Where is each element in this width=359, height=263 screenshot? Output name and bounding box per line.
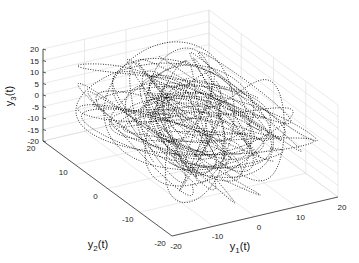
tick-label: 10 <box>59 168 68 177</box>
tick-label: -20 <box>154 239 166 248</box>
chart-3d-plot: -20-15-10-505101520-20-1001020-20-100102… <box>0 0 359 263</box>
tick-label: 20 <box>30 45 39 54</box>
tick-label: -20 <box>170 242 182 251</box>
tick-label: -10 <box>27 114 39 123</box>
tick-label: -5 <box>32 103 40 112</box>
x-axis-label: y1(t) <box>230 240 250 255</box>
tick-label: 5 <box>35 80 40 89</box>
trajectory <box>76 42 317 203</box>
tick-label: 15 <box>30 57 39 66</box>
tick-label: 0 <box>35 91 40 100</box>
tick-label: -10 <box>122 215 134 224</box>
tick-label: 20 <box>338 203 347 212</box>
tick-label: 0 <box>257 223 262 232</box>
tick-label: 0 <box>93 192 98 201</box>
tick-label: 20 <box>27 144 36 153</box>
tick-label: 10 <box>296 213 305 222</box>
tick-label: 10 <box>30 68 39 77</box>
tick-label: -15 <box>27 126 39 135</box>
grid-lines <box>43 10 338 236</box>
tick-label: -10 <box>212 232 224 241</box>
z-axis-label: y3(t) <box>3 86 18 106</box>
y-axis-label: y2(t) <box>88 238 108 253</box>
